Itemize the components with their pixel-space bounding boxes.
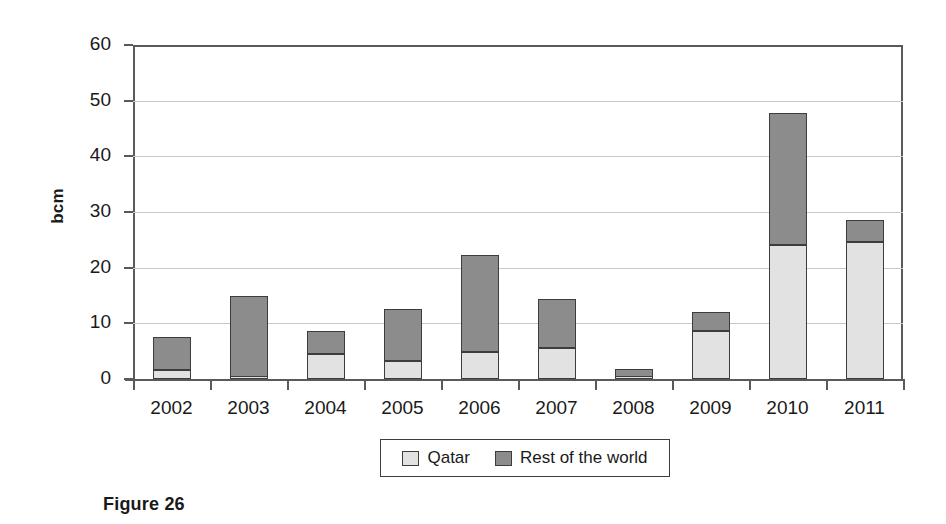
bar-segment-2009-rest-of-the-world[interactable] <box>692 312 730 331</box>
legend-swatch-qatar <box>402 451 419 466</box>
bar-segment-2006-rest-of-the-world[interactable] <box>461 255 499 351</box>
x-tick-2010 <box>749 379 751 390</box>
bar-2009[interactable] <box>692 312 730 379</box>
y-tick-label-60: 60 <box>90 33 111 55</box>
x-tick-label-2005: 2005 <box>381 397 423 419</box>
x-tick-2003 <box>210 379 212 390</box>
y-tick-label-10: 10 <box>90 311 111 333</box>
x-tick-label-2006: 2006 <box>458 397 500 419</box>
x-tick-2008 <box>595 379 597 390</box>
bar-2011[interactable] <box>846 220 884 379</box>
bar-2008[interactable] <box>615 369 653 379</box>
y-tick-label-50: 50 <box>90 88 111 110</box>
x-tick-2007 <box>518 379 520 390</box>
bar-segment-2011-qatar[interactable] <box>846 242 884 379</box>
bar-2003[interactable] <box>230 296 268 380</box>
y-tick-50: 50 <box>124 100 133 102</box>
x-tick-label-2004: 2004 <box>304 397 346 419</box>
bar-segment-2002-qatar[interactable] <box>153 370 191 379</box>
bar-segment-2009-qatar[interactable] <box>692 331 730 379</box>
x-tick-2004 <box>287 379 289 390</box>
bar-segment-2002-rest-of-the-world[interactable] <box>153 337 191 370</box>
bar-segment-2005-qatar[interactable] <box>384 361 422 379</box>
bar-2005[interactable] <box>384 309 422 379</box>
chart-legend: QatarRest of the world <box>380 439 670 477</box>
plot-border-top <box>133 45 903 47</box>
bar-segment-2004-qatar[interactable] <box>307 354 345 379</box>
figure-container: bcm 0102030405060 2002200320042005200620… <box>0 0 946 524</box>
y-tick-label-0: 0 <box>100 367 111 389</box>
figure-caption: Figure 26 <box>103 494 185 515</box>
y-tick-40: 40 <box>124 155 133 157</box>
y-tick-20: 20 <box>124 267 133 269</box>
x-tick-label-2007: 2007 <box>535 397 577 419</box>
y-tick-30: 30 <box>124 211 133 213</box>
legend-label: Rest of the world <box>520 448 648 468</box>
x-tick-2006 <box>441 379 443 390</box>
bar-segment-2007-rest-of-the-world[interactable] <box>538 299 576 347</box>
bar-segment-2011-rest-of-the-world[interactable] <box>846 220 884 242</box>
y-tick-60: 60 <box>124 44 133 46</box>
bar-2010[interactable] <box>769 113 807 379</box>
y-tick-10: 10 <box>124 322 133 324</box>
bar-segment-2010-rest-of-the-world[interactable] <box>769 113 807 245</box>
y-tick-0: 0 <box>124 378 133 380</box>
x-tick-label-2002: 2002 <box>150 397 192 419</box>
legend-entry-qatar[interactable]: Qatar <box>402 448 470 468</box>
x-tick-label-2010: 2010 <box>766 397 808 419</box>
y-axis-line <box>133 45 135 381</box>
bar-2004[interactable] <box>307 331 345 379</box>
plot-area: 0102030405060 20022003200420052006200720… <box>133 45 903 379</box>
bar-segment-2005-rest-of-the-world[interactable] <box>384 309 422 361</box>
x-tick-2002 <box>133 379 135 390</box>
x-tick-2005 <box>364 379 366 390</box>
legend-swatch-rest-of-the-world <box>495 451 512 466</box>
x-tick-2009 <box>672 379 674 390</box>
bar-2002[interactable] <box>153 337 191 379</box>
x-tick-label-2009: 2009 <box>689 397 731 419</box>
bar-2006[interactable] <box>461 255 499 379</box>
bar-segment-2006-qatar[interactable] <box>461 352 499 379</box>
x-tick-end <box>903 379 905 390</box>
bar-segment-2007-qatar[interactable] <box>538 348 576 379</box>
x-tick-label-2003: 2003 <box>227 397 269 419</box>
bar-segment-2010-qatar[interactable] <box>769 245 807 379</box>
y-tick-label-20: 20 <box>90 255 111 277</box>
bar-segment-2008-rest-of-the-world[interactable] <box>615 369 653 377</box>
x-tick-label-2008: 2008 <box>612 397 654 419</box>
bar-2007[interactable] <box>538 299 576 379</box>
x-tick-label-2011: 2011 <box>844 397 885 419</box>
bar-segment-2004-rest-of-the-world[interactable] <box>307 331 345 354</box>
gridline-50 <box>133 101 903 102</box>
x-tick-2011 <box>826 379 828 390</box>
bar-segment-2003-rest-of-the-world[interactable] <box>230 296 268 378</box>
y-axis-title: bcm <box>48 186 68 226</box>
x-axis-line <box>125 379 905 381</box>
legend-entry-rest-of-the-world[interactable]: Rest of the world <box>495 448 648 468</box>
y-tick-label-30: 30 <box>90 200 111 222</box>
legend-label: Qatar <box>427 448 470 468</box>
y-tick-label-40: 40 <box>90 144 111 166</box>
